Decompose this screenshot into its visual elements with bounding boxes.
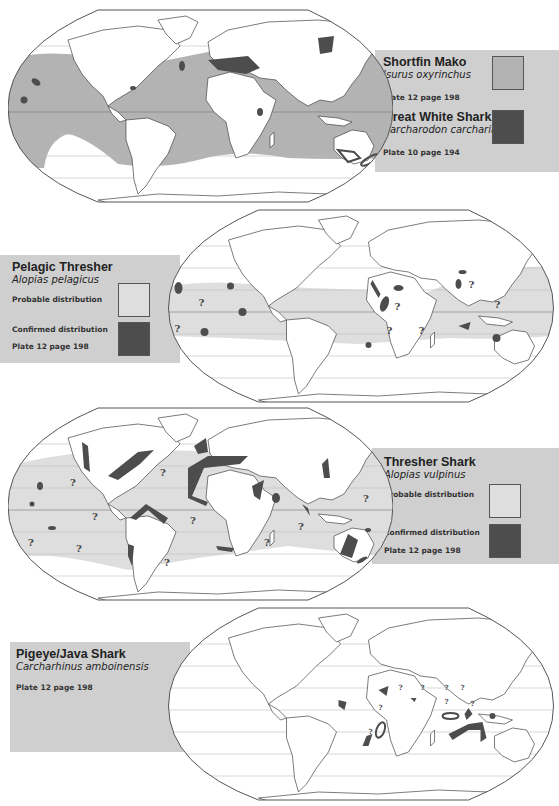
world-map: ? ? ? ? ? ? ? ?: [168, 606, 554, 802]
svg-text:?: ?: [76, 543, 82, 554]
legend-swatch-confirmed: [118, 322, 150, 356]
legend-label-confirmed: Confirmed distribution: [12, 325, 108, 335]
species-scientific-name: Isurus oxyrinchus: [383, 69, 471, 81]
svg-text:?: ?: [28, 537, 34, 548]
svg-text:?: ?: [471, 699, 475, 708]
legend-swatch-probable: [489, 484, 521, 518]
species-scientific-name: Carcharhinus amboinensis: [16, 661, 149, 673]
svg-text:?: ?: [298, 521, 304, 532]
svg-text:?: ?: [421, 683, 425, 692]
legend-box-pelagic-thresher: Pelagic Thresher Alopias pelagicus Proba…: [0, 255, 180, 363]
svg-text:?: ?: [369, 727, 373, 736]
svg-text:?: ?: [264, 537, 270, 548]
svg-text:?: ?: [419, 325, 425, 336]
svg-text:?: ?: [363, 493, 369, 504]
world-map: ? ? ? ? ? ? ?: [168, 208, 554, 404]
species-common-name: Great White Shark: [383, 110, 491, 124]
legend-swatch-great-white: [492, 110, 524, 144]
plate-reference: Plate 12 page 198: [384, 546, 461, 556]
species-common-name: Thresher Shark: [384, 455, 476, 469]
svg-text:?: ?: [164, 557, 170, 568]
legend-box-pigeye-java-shark: Pigeye/Java Shark Carcharhinus amboinens…: [10, 642, 190, 752]
species-common-name: Pelagic Thresher: [12, 260, 113, 274]
svg-text:?: ?: [445, 697, 449, 706]
world-map: ? ? ? ? ? ? ? ? ? ?: [8, 406, 393, 602]
plate-reference: Plate 12 page 198: [16, 683, 93, 693]
svg-text:?: ?: [395, 301, 401, 312]
plate-reference: Plate 10 page 194: [383, 148, 460, 158]
map-panel-pelagic-thresher: Pelagic Thresher Alopias pelagicus Proba…: [0, 205, 559, 405]
svg-text:?: ?: [461, 683, 465, 692]
svg-text:?: ?: [199, 297, 205, 308]
legend-box-shortfin-mako: Shortfin Mako Isurus oxyrinchus Plate 12…: [375, 50, 559, 172]
svg-text:?: ?: [445, 683, 449, 692]
species-scientific-name: Alopias pelagicus: [12, 274, 99, 286]
legend-label-probable: Probable distribution: [12, 295, 102, 305]
species-scientific-name: Alopias vulpinus: [384, 469, 465, 481]
species-scientific-name: Carcharodon carcharias: [383, 124, 502, 136]
species-common-name: Pigeye/Java Shark: [16, 647, 126, 661]
map-panel-pigeye-java-shark: Pigeye/Java Shark Carcharhinus amboinens…: [0, 604, 559, 806]
svg-text:?: ?: [495, 299, 501, 310]
legend-box-thresher-shark: Thresher Shark Alopias vulpinus Probable…: [372, 448, 559, 564]
svg-text:?: ?: [379, 703, 383, 712]
svg-text:?: ?: [469, 279, 475, 290]
plate-reference: Plate 12 page 198: [383, 93, 460, 103]
map-panel-thresher-shark: Thresher Shark Alopias vulpinus Probable…: [0, 402, 559, 602]
legend-swatch-confirmed: [489, 524, 521, 558]
svg-text:?: ?: [175, 323, 181, 334]
svg-text:?: ?: [399, 683, 403, 692]
svg-text:?: ?: [387, 325, 393, 336]
plate-reference: Plate 12 page 198: [12, 342, 89, 352]
svg-text:?: ?: [190, 515, 196, 526]
legend-swatch-mako: [492, 56, 524, 90]
svg-text:?: ?: [160, 467, 166, 478]
species-common-name: Shortfin Mako: [383, 55, 466, 69]
svg-text:?: ?: [92, 511, 98, 522]
legend-swatch-probable: [118, 283, 150, 317]
legend-label-probable: Probable distribution: [384, 490, 474, 500]
map-panel-shortfin-mako: Shortfin Mako Isurus oxyrinchus Plate 12…: [0, 0, 559, 205]
world-map: [8, 8, 393, 204]
svg-text:?: ?: [70, 477, 76, 488]
legend-label-confirmed: Confirmed distribution: [384, 528, 480, 538]
